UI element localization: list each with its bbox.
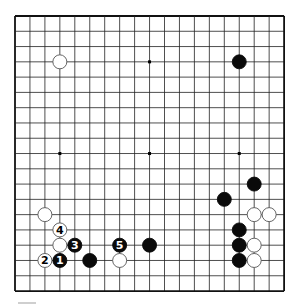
black-stone-icon [232,55,246,69]
move-number: 5 [116,239,124,252]
black-stone-5: 5 [113,238,127,252]
white-stone-2: 2 [38,253,52,267]
black-stone-icon [217,192,231,206]
star-point [238,152,241,155]
black-stone-icon [232,238,246,252]
stones-layer: 43521 [38,55,276,268]
black-stone-1: 1 [53,253,67,267]
move-number: 3 [71,239,79,252]
move-number: 1 [56,254,64,267]
move-number: 4 [56,224,64,237]
black-stone-icon [247,177,261,191]
black-stone [232,238,246,252]
white-stone [113,253,127,267]
white-stone [247,208,261,222]
black-stone [232,223,246,237]
white-stone [38,208,52,222]
white-stone [53,55,67,69]
caption-fragment [18,302,36,304]
black-stone [232,55,246,69]
black-stone [83,253,97,267]
go-board: 43521 [0,0,299,305]
star-point [58,152,61,155]
white-stone [53,238,67,252]
black-stone-3: 3 [68,238,82,252]
white-stone-icon [38,208,52,222]
black-stone-icon [232,253,246,267]
black-stone [143,238,157,252]
white-stone-icon [247,208,261,222]
move-number: 2 [41,254,49,267]
black-stone [217,192,231,206]
white-stone-icon [53,55,67,69]
black-stone-icon [143,238,157,252]
white-stone-icon [53,238,67,252]
white-stone-icon [247,238,261,252]
white-stone-4: 4 [53,223,67,237]
white-stone-icon [262,208,276,222]
white-stone-icon [247,253,261,267]
white-stone [247,238,261,252]
white-stone [247,253,261,267]
star-point [148,152,151,155]
white-stone [262,208,276,222]
black-stone-icon [83,253,97,267]
black-stone [232,253,246,267]
star-point [148,60,151,63]
black-stone-icon [232,223,246,237]
white-stone-icon [113,253,127,267]
black-stone [247,177,261,191]
